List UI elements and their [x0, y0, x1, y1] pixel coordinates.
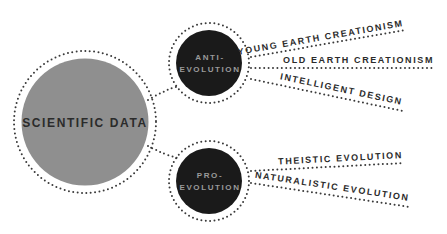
- branch-naturalistic-evolution: NATURALISTIC EVOLUTION: [251, 170, 410, 207]
- pro-circle: [176, 148, 242, 214]
- evolution-views-diagram: .dotline { fill: none; stroke: #3a3a3a; …: [0, 0, 447, 234]
- connector-root-pro: [148, 146, 178, 158]
- connector-root-anti: [148, 86, 180, 100]
- branch-label: THEISTIC EVOLUTION: [278, 150, 403, 167]
- root-label: SCIENTIFIC DATA: [22, 116, 148, 130]
- branch-old-earth: OLD EARTH CREATIONISM: [251, 55, 435, 68]
- branch-label: YOUNG EARTH CREATIONISM: [237, 18, 404, 57]
- branch-theistic-evolution: THEISTIC EVOLUTION: [251, 150, 404, 171]
- anti-label-line1: ANTI-: [195, 53, 224, 62]
- anti-evolution-node: ANTI- EVOLUTION: [169, 23, 249, 103]
- branch-line: [251, 163, 404, 171]
- branch-label: OLD EARTH CREATIONISM: [283, 55, 434, 65]
- branch-young-earth: YOUNG EARTH CREATIONISM: [237, 18, 405, 57]
- anti-label-line2: EVOLUTION: [179, 65, 240, 74]
- anti-circle: [176, 30, 242, 96]
- pro-label-line1: PRO-: [197, 171, 223, 180]
- pro-evolution-node: PRO- EVOLUTION: [169, 141, 249, 221]
- root-node: SCIENTIFIC DATA: [14, 51, 156, 193]
- pro-label-line2: EVOLUTION: [179, 183, 240, 192]
- branch-intelligent-design: INTELLIGENT DESIGN: [251, 71, 404, 111]
